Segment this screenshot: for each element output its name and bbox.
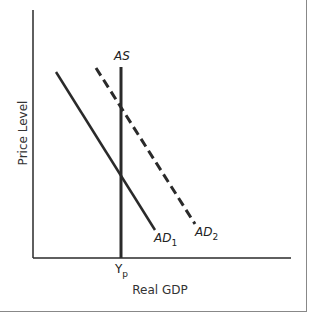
ad2-label: AD2 [195,225,218,239]
as-label: AS [114,49,130,63]
y-axis-label: Price Level [16,93,30,173]
ad1-label: AD1 [154,231,177,245]
ad2-label-main: AD [195,225,212,239]
ad1-label-main: AD [154,231,171,245]
yp-tick-label: Yp [115,262,128,276]
ad2-curve [96,68,195,224]
yp-sub: p [122,269,128,279]
ad1-curve [56,72,155,230]
ad1-label-sub: 1 [171,238,177,248]
ad2-label-sub: 2 [212,232,218,242]
diagram-canvas [0,0,318,321]
x-axis-label: Real GDP [120,283,200,297]
